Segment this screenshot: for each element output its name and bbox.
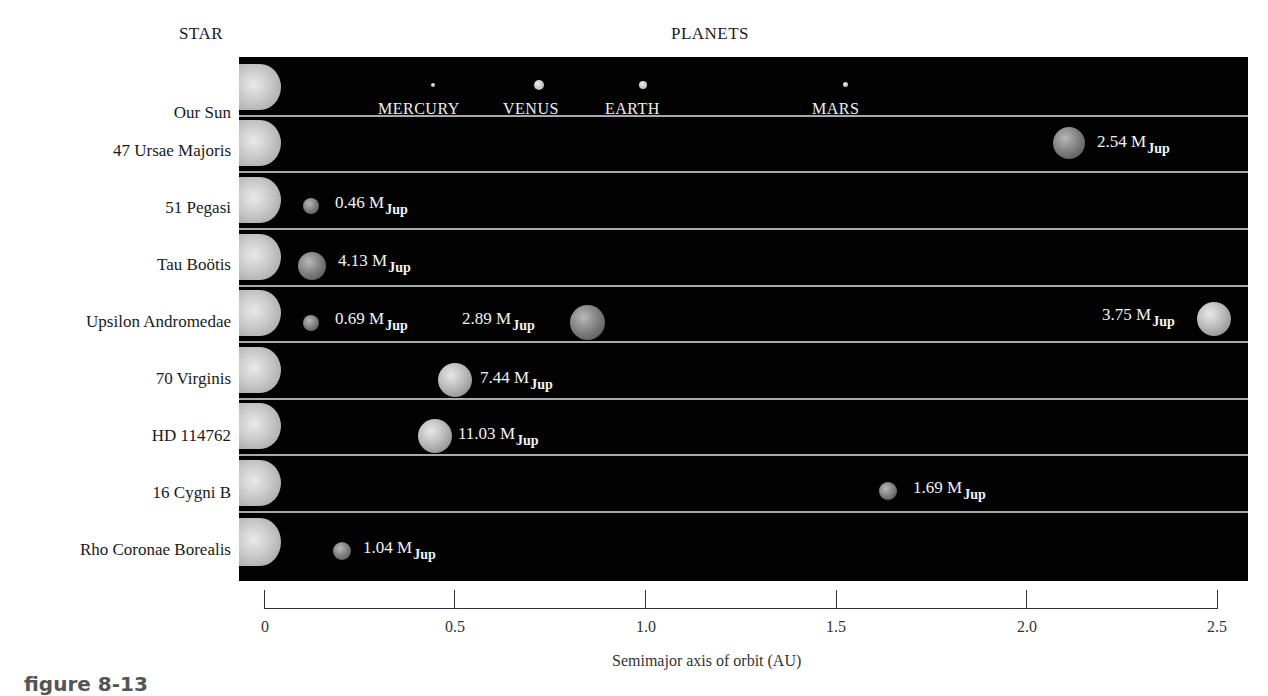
row-divider [239, 285, 1248, 287]
x-tick-label: 1.0 [636, 618, 656, 636]
star-label-47-uma: 47 Ursae Majoris [113, 141, 231, 161]
star-sphere-icon [239, 64, 281, 110]
earth-label: EARTH [605, 100, 660, 118]
star-label-hd-114762: HD 114762 [152, 426, 231, 446]
x-tick [454, 590, 455, 609]
planet-mass-label: 1.69 MJup [913, 478, 986, 498]
star-label-tau-boo: Tau Boötis [157, 255, 231, 275]
planet-mass-label: 3.75 MJup [1102, 305, 1175, 325]
star-sphere-icon [239, 177, 281, 223]
planet-sphere-icon [879, 482, 897, 500]
mars-label: MARS [812, 100, 859, 118]
x-tick [264, 590, 265, 609]
x-tick-label: 2.5 [1207, 618, 1227, 636]
planet-sphere-icon [418, 419, 452, 453]
planet-sphere-icon [298, 252, 326, 280]
planet-sphere-icon [570, 305, 605, 340]
planet-mass-label: 2.54 MJup [1097, 132, 1170, 152]
row-divider [239, 171, 1248, 173]
star-sphere-icon [239, 347, 281, 393]
x-tick [836, 590, 837, 609]
planet-sphere-icon [1053, 127, 1085, 159]
star-label-51-peg: 51 Pegasi [165, 198, 231, 218]
planet-sphere-icon [303, 198, 319, 214]
star-label-70-vir: 70 Virginis [156, 369, 231, 389]
star-sphere-icon [239, 518, 281, 566]
x-tick-label: 0 [261, 618, 269, 636]
x-tick [1217, 590, 1218, 609]
x-tick-label: 2.0 [1017, 618, 1037, 636]
star-sphere-icon [239, 290, 281, 336]
planet-mass-label: 2.89 MJup [462, 309, 535, 329]
star-sphere-icon [239, 234, 281, 280]
mercury-dot-icon [431, 83, 435, 87]
row-divider [239, 398, 1248, 400]
planet-mass-label: 4.13 MJup [338, 251, 411, 271]
planet-sphere-icon [1197, 302, 1231, 336]
row-divider [239, 341, 1248, 343]
x-tick-label: 0.5 [445, 618, 465, 636]
star-label-ups-and: Upsilon Andromedae [86, 312, 231, 332]
mars-dot-icon [843, 82, 848, 87]
x-tick [1026, 590, 1027, 609]
chart-panel: MERCURY VENUS EARTH MARS 2.54 MJup 0.46 … [239, 57, 1248, 581]
x-tick-label: 1.5 [826, 618, 846, 636]
star-column-header: STAR [179, 24, 223, 44]
planet-mass-label: 0.69 MJup [335, 309, 408, 329]
planet-mass-label: 7.44 MJup [480, 368, 553, 388]
planets-column-header: PLANETS [610, 24, 810, 44]
star-label-our-sun: Our Sun [174, 103, 231, 123]
mercury-label: MERCURY [378, 100, 460, 118]
row-divider [239, 454, 1248, 456]
x-tick [645, 590, 646, 609]
row-divider [239, 511, 1248, 513]
planet-sphere-icon [438, 363, 472, 397]
planet-sphere-icon [303, 315, 319, 331]
star-sphere-icon [239, 460, 281, 506]
venus-label: VENUS [503, 100, 559, 118]
star-label-rho-crb: Rho Coronae Borealis [80, 540, 231, 560]
figure-caption: figure 8-13 [24, 672, 148, 696]
planet-sphere-icon [333, 542, 351, 560]
planet-mass-label: 1.04 MJup [363, 538, 436, 558]
star-sphere-icon [239, 120, 281, 166]
x-axis-title: Semimajor axis of orbit (AU) [612, 652, 801, 670]
planet-mass-label: 11.03 MJup [458, 424, 539, 444]
planet-mass-label: 0.46 MJup [335, 193, 408, 213]
venus-dot-icon [534, 80, 544, 90]
star-label-16-cyg-b: 16 Cygni B [153, 483, 231, 503]
row-divider [239, 228, 1248, 230]
earth-dot-icon [639, 81, 647, 89]
star-sphere-icon [239, 403, 281, 449]
x-axis-line [264, 608, 1218, 609]
